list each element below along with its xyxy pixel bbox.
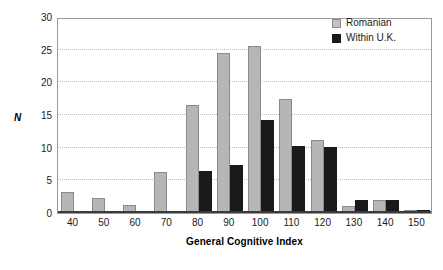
bar-group — [277, 19, 308, 213]
y-axis-tick-labels: 051015202530 — [26, 18, 52, 214]
x-tick-label: 150 — [408, 218, 425, 228]
bar-group — [183, 19, 214, 213]
legend-label-romanian: Romanian — [346, 18, 392, 28]
bar-group — [214, 19, 245, 213]
bar-group — [339, 19, 370, 213]
x-tick-label: 90 — [223, 218, 234, 228]
bar — [261, 120, 274, 213]
bar — [324, 147, 337, 213]
bar — [186, 105, 199, 213]
bar — [230, 165, 243, 213]
legend-swatch-romanian — [332, 19, 341, 28]
bar — [311, 140, 324, 213]
y-tick-label: 20 — [41, 78, 52, 88]
chart-figure: N 051015202530 4050607080901001101201301… — [0, 0, 443, 270]
bar-group — [402, 19, 432, 213]
bar — [61, 192, 74, 213]
plot-area — [57, 18, 432, 214]
bar-group — [308, 19, 339, 213]
legend-swatch-within-uk — [332, 34, 341, 43]
chart-legend: Romanian Within U.K. — [332, 17, 396, 44]
y-axis-label: N — [14, 113, 21, 123]
bar — [154, 172, 167, 213]
y-tick-label: 0 — [46, 209, 52, 219]
x-tick-label: 110 — [283, 218, 299, 228]
legend-item-romanian: Romanian — [332, 17, 396, 29]
y-tick-label: 5 — [46, 176, 52, 186]
x-tick-label: 70 — [161, 218, 172, 228]
bar-group — [58, 19, 89, 213]
x-tick-label: 50 — [98, 218, 109, 228]
bar — [199, 171, 212, 213]
legend-item-within-uk: Within U.K. — [332, 32, 396, 44]
x-tick-label: 60 — [130, 218, 141, 228]
bar-group — [246, 19, 277, 213]
bar-group — [89, 19, 120, 213]
x-axis-baseline — [58, 211, 431, 213]
bar — [217, 53, 230, 213]
x-tick-label: 140 — [377, 218, 394, 228]
x-axis-tick-labels: 405060708090100110120130140150 — [57, 218, 432, 232]
bar-group — [371, 19, 402, 213]
y-tick-label: 10 — [41, 144, 52, 154]
x-tick-label: 100 — [252, 218, 269, 228]
y-tick-label: 25 — [41, 46, 52, 56]
y-tick-label: 30 — [41, 13, 52, 23]
bar-group — [121, 19, 152, 213]
bar — [279, 99, 292, 213]
y-tick-label: 15 — [41, 111, 52, 121]
x-axis-label: General Cognitive Index — [57, 236, 432, 247]
legend-label-within-uk: Within U.K. — [346, 33, 396, 43]
x-tick-label: 120 — [314, 218, 331, 228]
bar-group — [152, 19, 183, 213]
x-tick-label: 40 — [67, 218, 78, 228]
x-tick-label: 80 — [192, 218, 203, 228]
bar-series-container — [58, 19, 431, 213]
x-tick-label: 130 — [346, 218, 363, 228]
bar — [248, 46, 261, 213]
bar — [292, 146, 305, 213]
